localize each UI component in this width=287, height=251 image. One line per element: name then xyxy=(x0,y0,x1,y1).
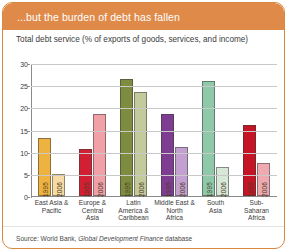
bar-group: 19952006 xyxy=(72,63,113,196)
bar-group: 19952006 xyxy=(195,63,236,196)
bar: 2006 xyxy=(257,163,270,196)
gridline xyxy=(31,131,277,132)
source-publication: Global Development Finance xyxy=(78,235,163,242)
chart-subtitle: Total debt service (% of exports of good… xyxy=(16,35,278,44)
bar-year-label: 2006 xyxy=(219,182,226,197)
source-suffix: database xyxy=(163,235,192,242)
bar-year-label: 1995 xyxy=(246,182,253,197)
bar-year-label: 2006 xyxy=(178,182,185,197)
bar-group: 19952006 xyxy=(113,63,154,196)
bar: 2006 xyxy=(52,174,65,196)
bar: 1995 xyxy=(38,138,51,196)
bar-group: 19952006 xyxy=(236,63,277,196)
y-axis-tick-label: 25 xyxy=(4,83,28,90)
y-axis-tick-mark xyxy=(27,131,30,132)
bar-series-container: 1995200619952006199520061995200619952006… xyxy=(31,63,277,196)
bar: 1995 xyxy=(243,125,256,196)
gridline xyxy=(31,153,277,154)
bar: 2006 xyxy=(175,147,188,196)
bar: 2006 xyxy=(216,167,229,196)
y-axis-tick-label: 15 xyxy=(4,127,28,134)
y-axis-tick-label: 30 xyxy=(4,61,28,68)
bar-year-label: 2006 xyxy=(137,182,144,197)
bar-year-label: 1995 xyxy=(164,182,171,197)
figure-header-bar: ...but the burden of debt has fallen xyxy=(3,3,284,30)
y-axis-tick-label: 0 xyxy=(4,194,28,201)
y-axis-tick-label: 5 xyxy=(4,171,28,178)
bar-group: 19952006 xyxy=(31,63,72,196)
bar-year-label: 2006 xyxy=(55,182,62,197)
bar-group: 19952006 xyxy=(154,63,195,196)
chart-figure: ...but the burden of debt has fallen Tot… xyxy=(2,2,285,249)
bar: 1995 xyxy=(161,114,174,196)
gridline xyxy=(31,86,277,87)
gridline xyxy=(31,175,277,176)
bar: 1995 xyxy=(120,79,133,196)
source-divider xyxy=(3,226,284,227)
bar: 1995 xyxy=(79,149,92,196)
y-axis-tick-mark xyxy=(27,108,30,109)
gridline xyxy=(31,108,277,109)
figure-title: ...but the burden of debt has fallen xyxy=(3,11,180,23)
plot-area: 1995200619952006199520061995200619952006… xyxy=(31,64,277,197)
y-axis: 051015202530 xyxy=(3,64,28,197)
source-note: Source: World Bank, Global Development F… xyxy=(16,235,192,242)
x-axis-line xyxy=(31,196,277,197)
gridline xyxy=(31,64,277,65)
y-axis-tick-label: 10 xyxy=(4,149,28,156)
y-axis-tick-mark xyxy=(27,64,30,65)
y-axis-tick-mark xyxy=(27,175,30,176)
bar-year-label: 1995 xyxy=(82,182,89,197)
bar-year-label: 1995 xyxy=(205,182,212,197)
bar: 1995 xyxy=(202,81,215,196)
bar-year-label: 1995 xyxy=(41,182,48,197)
y-axis-tick-mark xyxy=(27,153,30,154)
bar: 2006 xyxy=(93,114,106,196)
bar-year-label: 2006 xyxy=(260,182,267,197)
bar-year-label: 1995 xyxy=(123,182,130,197)
y-axis-tick-mark xyxy=(27,197,30,198)
y-axis-tick-label: 20 xyxy=(4,105,28,112)
source-prefix: Source: World Bank, xyxy=(16,235,78,242)
y-axis-tick-mark xyxy=(27,86,30,87)
bar-year-label: 2006 xyxy=(96,182,103,197)
